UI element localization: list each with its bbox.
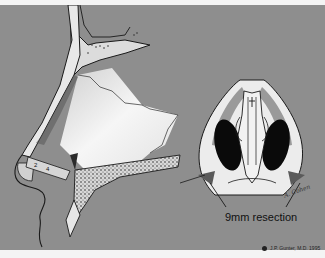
copyright-icon xyxy=(262,246,267,251)
illustration-panel: 2 4 xyxy=(0,5,325,250)
lateral-view: 2 4 xyxy=(15,5,180,247)
figure-canvas: 2 4 xyxy=(0,0,325,258)
copyright-notice: J.P. Gunter, M.D. 1995 xyxy=(262,245,320,251)
copyright-text: J.P. Gunter, M.D. 1995 xyxy=(270,245,320,251)
basal-view xyxy=(180,80,305,207)
resection-label: 9mm resection xyxy=(225,211,297,223)
